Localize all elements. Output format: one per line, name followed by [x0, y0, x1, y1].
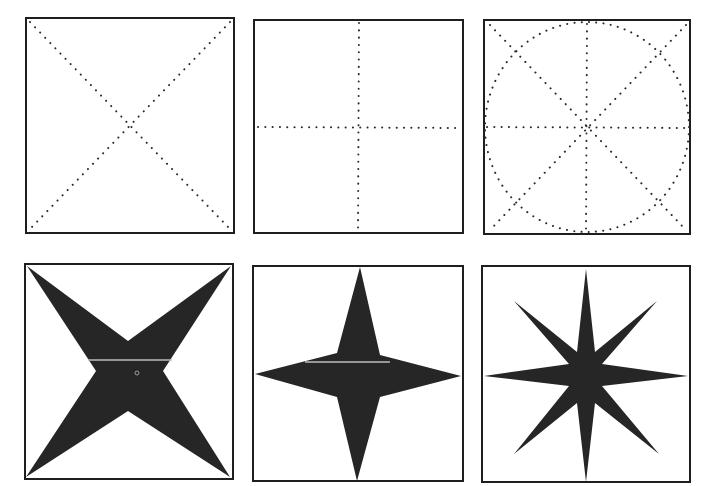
horizontal-guide-line [258, 127, 460, 128]
four-point-star-diagonal [26, 266, 231, 477]
panel-guide-axes [254, 20, 463, 233]
eight-point-star [484, 269, 688, 482]
star-construction-figure [0, 0, 710, 486]
four-point-star-axis [255, 267, 461, 481]
panel-star-four-diagonal [25, 264, 233, 479]
panel-guide-circle-eight [484, 20, 690, 234]
vertical-guide-line [586, 24, 587, 232]
vertical-guide-line [358, 23, 359, 230]
panel-star-four-axis [253, 266, 463, 481]
horizontal-guide-line [487, 127, 688, 128]
panel-star-eight [482, 266, 690, 482]
panel-guide-diagonals [26, 18, 234, 233]
